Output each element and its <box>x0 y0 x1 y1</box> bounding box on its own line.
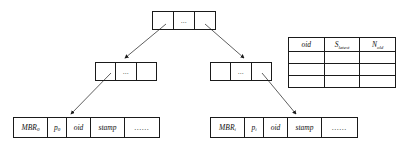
leaf-node-right[interactable]: MBRi pi oid stamp ...... <box>210 117 358 138</box>
table-cell[interactable] <box>289 76 325 88</box>
table-cell[interactable] <box>324 64 360 76</box>
intermediate-right-cell-3[interactable] <box>252 63 271 80</box>
table-header-n-old: Nold <box>360 38 396 52</box>
leaf-right-mbr-subscript: i <box>235 127 236 132</box>
leaf-left-p-subscript: 0 <box>58 127 61 132</box>
intermediate-left-cell-2[interactable]: ... <box>116 63 136 80</box>
intermediate-left-cell-3[interactable] <box>137 63 156 80</box>
table-row[interactable] <box>289 52 396 64</box>
table-cell[interactable] <box>360 52 396 64</box>
table-cell[interactable] <box>289 52 325 64</box>
leaf-right-stamp-cell[interactable]: stamp <box>288 118 322 137</box>
leaf-right-mbr-cell[interactable]: MBRi <box>211 118 245 137</box>
leaf-right-oid-cell[interactable]: oid <box>264 118 288 137</box>
intermediate-node-left[interactable]: ... <box>95 62 157 81</box>
table-row[interactable] <box>289 64 396 76</box>
intermediate-node-right[interactable]: ... <box>210 62 272 81</box>
leaf-left-oid-cell[interactable]: oid <box>67 118 91 137</box>
table-header-s-subscript: latest <box>338 45 349 50</box>
table-header-s-latest: Slatest <box>324 38 360 52</box>
leaf-left-mbr-label: MBR <box>22 123 37 132</box>
leaf-left-ellipsis-cell[interactable]: ...... <box>125 118 159 137</box>
intermediate-left-cell-1[interactable] <box>96 63 116 80</box>
table-cell[interactable] <box>324 52 360 64</box>
intermediate-right-cell-1[interactable] <box>211 63 231 80</box>
table-header-row: oid Slatest Nold <box>289 38 396 52</box>
leaf-left-stamp-cell[interactable]: stamp <box>91 118 125 137</box>
leaf-right-p-subscript: i <box>255 127 256 132</box>
leaf-left-p-cell[interactable]: p0 <box>48 118 67 137</box>
table-header-n-subscript: old <box>377 45 383 50</box>
table-header-oid: oid <box>289 38 325 52</box>
table-cell[interactable] <box>324 76 360 88</box>
root-node[interactable]: ... <box>152 11 216 30</box>
diagram-canvas: ... ... ... MBR0 p0 oid stamp ...... MBR… <box>0 0 407 150</box>
intermediate-right-cell-2[interactable]: ... <box>231 63 251 80</box>
leaf-right-p-cell[interactable]: pi <box>245 118 264 137</box>
table-header-oid-label: oid <box>302 40 312 49</box>
table-row[interactable] <box>289 76 396 88</box>
table-cell[interactable] <box>289 64 325 76</box>
root-cell-2[interactable]: ... <box>174 12 195 29</box>
object-history-table[interactable]: oid Slatest Nold <box>288 37 396 88</box>
table-cell[interactable] <box>360 76 396 88</box>
leaf-left-mbr-subscript: 0 <box>37 127 40 132</box>
leaf-left-mbr-cell[interactable]: MBR0 <box>14 118 48 137</box>
leaf-right-mbr-label: MBR <box>219 123 234 132</box>
table-cell[interactable] <box>360 64 396 76</box>
leaf-right-ellipsis-cell[interactable]: ...... <box>322 118 357 137</box>
root-cell-1[interactable] <box>153 12 174 29</box>
root-cell-3[interactable] <box>195 12 215 29</box>
leaf-node-left[interactable]: MBR0 p0 oid stamp ...... <box>13 117 160 138</box>
